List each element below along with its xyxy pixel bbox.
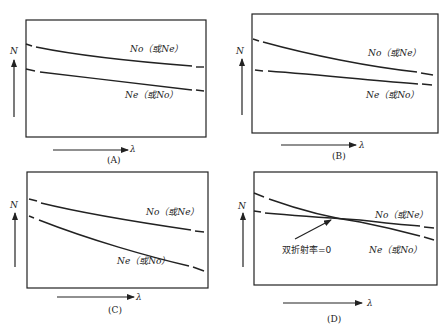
panel-c-no-curve	[29, 199, 37, 201]
panel-d: N λ (D) No（或Ne） Ne（或No） 双折射率=0	[237, 172, 437, 324]
panel-d-caption: (D)	[327, 314, 341, 324]
panel-a-ne-curve	[26, 69, 35, 71]
panel-b-y-axis-label: N	[235, 46, 245, 56]
panel-b-frame	[252, 14, 438, 133]
panel-b-ne-curve	[255, 70, 263, 71]
panel-a-x-axis-label: λ	[129, 144, 136, 154]
panel-a-y-axis-label: N	[9, 46, 19, 56]
panel-d-no-label: No（或Ne）	[374, 210, 429, 220]
panel-d-y-axis-label: N	[237, 201, 247, 211]
panel-a-no-label: No（或Ne）	[129, 44, 184, 54]
panel-b: N λ (B) No（或Ne） Ne（或No）	[235, 14, 438, 161]
panel-d-annotation: 双折射率=0	[282, 244, 332, 255]
panel-a-frame	[26, 20, 206, 137]
panel-d-annotation-arrow	[295, 220, 331, 239]
panel-b-caption: (B)	[332, 151, 346, 161]
panel-a-caption: (A)	[107, 155, 121, 165]
panel-c: N λ (C) No（或Ne） Ne（或No）	[9, 172, 208, 315]
panel-c-ne-label: Ne（或No）	[116, 256, 171, 266]
birefringence-dispersion-figure: N λ (A) No（或Ne） Ne（或No） N λ (B) No（或Ne） …	[0, 0, 443, 325]
panel-b-no-curve	[253, 39, 259, 41]
panel-b-x-axis-label: λ	[358, 140, 365, 150]
panel-d-ne-curve	[254, 193, 264, 197]
panel-d-frame	[254, 172, 437, 285]
panel-d-no-curve	[254, 211, 261, 212]
panel-c-no-label: No（或Ne）	[145, 207, 200, 217]
panel-b-no-label: No（或Ne）	[367, 48, 422, 58]
panel-b-ne-label: Ne（或No）	[365, 90, 420, 100]
panel-a-no-curve	[26, 44, 32, 46]
panel-d-ne-label: Ne（或No）	[368, 245, 423, 255]
panel-c-ne-curve	[29, 216, 34, 218]
panel-a: N λ (A) No（或Ne） Ne（或No）	[9, 20, 206, 165]
panel-a-ne-label: Ne（或No）	[124, 90, 179, 100]
panel-d-x-axis-label: λ	[366, 298, 373, 308]
panel-c-caption: (C)	[108, 305, 122, 315]
panel-c-x-axis-label: λ	[135, 292, 142, 302]
panel-c-frame	[27, 172, 208, 288]
panel-c-y-axis-label: N	[9, 200, 19, 210]
